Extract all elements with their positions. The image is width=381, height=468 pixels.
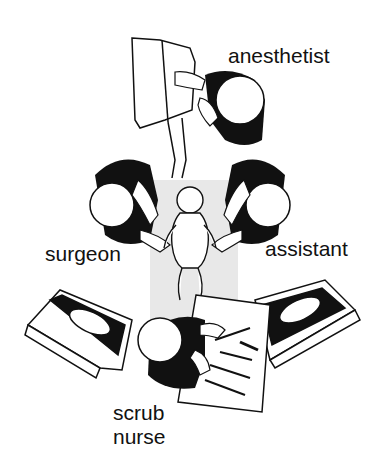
scrub-nurse-label-line2: nurse — [113, 426, 166, 448]
left-monitor — [25, 290, 132, 378]
anesthesia-machine — [132, 38, 195, 178]
right-monitor — [255, 280, 360, 368]
surgeon-label: surgeon — [45, 243, 121, 265]
or-layout-illustration — [0, 0, 381, 468]
anesthetist-label: anesthetist — [228, 45, 330, 67]
assistant-label: assistant — [265, 238, 348, 260]
scrub-nurse-label-line1: scrub — [113, 402, 164, 424]
